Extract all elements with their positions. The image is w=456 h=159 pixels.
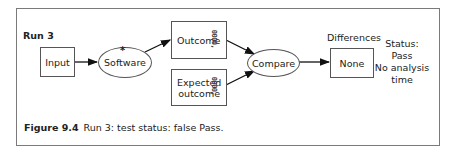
input-label: Input xyxy=(45,57,70,68)
figure-number: Figure 9.4 xyxy=(24,122,79,133)
compare-label: Compare xyxy=(252,58,295,69)
caption-text: Run 3: test status: false Pass. xyxy=(84,122,224,133)
expected-outcome-box: Expected outcome xyxy=(171,69,227,106)
run-label: Run 3 xyxy=(23,30,54,41)
data-output-icon: 0000, xyxy=(210,25,218,53)
status-line1: Status: xyxy=(374,38,430,50)
figure-caption: Figure 9.4Run 3: test status: false Pass… xyxy=(24,122,223,133)
differences-label: Differences xyxy=(327,32,381,43)
software-label: Software xyxy=(104,57,146,68)
none-box: None xyxy=(330,48,374,78)
status-line3: No analysis xyxy=(374,62,430,74)
compare-ellipse: Compare xyxy=(247,49,300,77)
status-text: Status: Pass No analysis time xyxy=(374,38,430,86)
none-label: None xyxy=(340,58,365,69)
status-line2: Pass xyxy=(374,50,430,62)
outcome-box: Outcome xyxy=(171,21,227,59)
data-expected-icon: 0000, xyxy=(210,72,218,100)
asterisk-marker: * xyxy=(120,45,125,56)
status-line4: time xyxy=(374,74,430,86)
input-box: Input xyxy=(40,47,75,77)
